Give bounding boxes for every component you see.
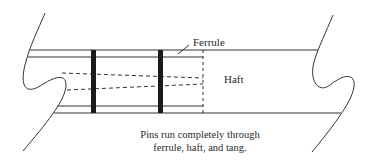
tang-top-dashed-edge	[62, 73, 203, 78]
knife-handle-diagram: Ferrule Haft Pins run completely through…	[0, 0, 370, 162]
ferrule-label: Ferrule	[193, 36, 225, 48]
haft-label: Haft	[224, 73, 244, 85]
diagram-caption: Pins run completely through ferrule, haf…	[120, 128, 280, 154]
caption-line-1: Pins run completely through	[120, 128, 280, 141]
caption-line-2: ferrule, haft, and tang.	[120, 141, 280, 154]
right-break-line	[312, 15, 354, 152]
pin-1	[91, 50, 96, 113]
tang-bottom-dashed-edge	[67, 84, 203, 90]
left-break-line	[23, 13, 66, 151]
pin-2	[158, 50, 163, 113]
